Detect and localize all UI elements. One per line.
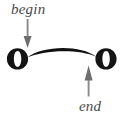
begin-arrow-head — [24, 36, 32, 48]
begin-arrow — [24, 19, 32, 48]
diagram-canvas — [0, 0, 124, 117]
left-letter-o-glyph — [7, 48, 28, 69]
connecting-stroke-arc — [27, 48, 97, 58]
end-arrow-head — [85, 66, 93, 81]
letterform-connection-diagram: begin end — [0, 0, 124, 117]
right-letter-o-glyph — [95, 48, 116, 69]
end-arrow — [85, 66, 93, 97]
